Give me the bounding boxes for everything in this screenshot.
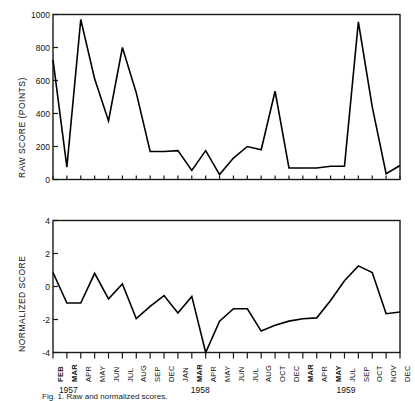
- x-tick-label-25: DEC: [403, 365, 412, 382]
- y-tick-label-bottom-2: 2: [12, 249, 50, 259]
- figure-raw-and-normalized-score: RAW SCORE (POINTS) 1000 800 600 400 200 …: [0, 0, 415, 401]
- axis-ticks-bottom: [53, 221, 400, 359]
- year-label-1959: 1959: [336, 385, 355, 395]
- data-line-raw-score: [53, 19, 400, 174]
- plot-frame-bottom: [53, 221, 400, 353]
- x-tick-label-6: AUG: [139, 365, 148, 382]
- x-tick-label-23: OCT: [375, 365, 384, 382]
- x-tick-label-2: APR: [84, 366, 93, 382]
- x-tick-label-3: MAY: [98, 365, 107, 382]
- plot-frame-top: [53, 15, 400, 180]
- x-tick-label-13: JUN: [237, 367, 246, 382]
- x-tick-label-11: APR: [209, 366, 218, 382]
- y-tick-label-bottom-0: 0: [12, 282, 50, 292]
- y-tick-label-bottom-4: 4: [12, 216, 50, 226]
- x-tick-label-18: MAR: [306, 364, 315, 382]
- x-tick-label-7: SEP: [153, 366, 162, 382]
- x-tick-label-4: JUN: [112, 367, 121, 382]
- x-tick-label-21: JUL: [348, 368, 357, 382]
- x-tick-label-15: AUG: [264, 365, 273, 382]
- x-tick-label-9: JAN: [181, 367, 190, 382]
- x-tick-label-20: MAY: [334, 365, 343, 382]
- y-tick-label-bottom-minus4: -4: [12, 348, 50, 358]
- x-tick-label-22: SEP: [362, 366, 371, 382]
- x-tick-label-17: DEC: [292, 365, 301, 382]
- x-tick-label-1: MAR: [70, 364, 79, 382]
- data-line-normalized-score: [53, 266, 400, 353]
- x-tick-label-19: APR: [320, 366, 329, 382]
- x-tick-label-0: FEB: [56, 366, 65, 382]
- figure-caption: Fig. 1. Raw and normalized scores.: [42, 392, 167, 401]
- year-label-1958: 1958: [191, 385, 210, 395]
- x-tick-label-12: MAY: [223, 365, 232, 382]
- y-tick-label-bottom-minus2: -2: [12, 315, 50, 325]
- x-tick-label-16: OCT: [278, 365, 287, 382]
- raw-score-plot: [0, 0, 415, 200]
- x-tick-label-24: NOV: [389, 365, 398, 382]
- x-tick-label-10: MAR: [195, 364, 204, 382]
- x-tick-label-8: DEC: [167, 365, 176, 382]
- axis-ticks-top: [53, 15, 400, 180]
- x-tick-label-14: JUL: [251, 368, 260, 382]
- y-axis-title-normalized-score: NORMALIZED SCORE: [17, 256, 27, 352]
- x-tick-label-5: JUL: [126, 368, 135, 382]
